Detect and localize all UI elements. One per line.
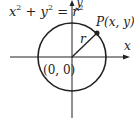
origin-label: (0, 0) [43,64,75,76]
point-p [95,31,100,36]
x-axis-arrow-icon [123,55,130,60]
x-axis-label: x [124,40,131,52]
equation-label: x2 + y2 = r2 [9,4,84,18]
point-label: P(x, y) [96,16,134,28]
y-axis-label: y [76,0,83,8]
circle-diagram: x2 + y2 = r2 y x (0, 0) r P(x, y) [0,0,134,124]
radius-label: r [80,33,86,45]
